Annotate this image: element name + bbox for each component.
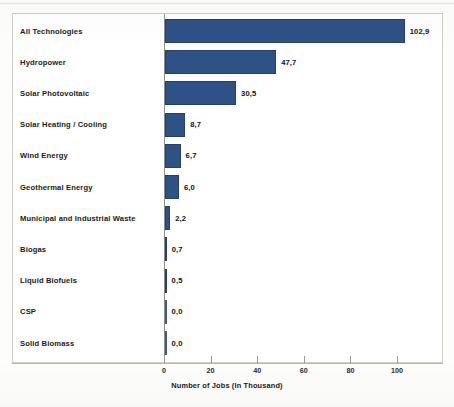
bar <box>165 81 236 105</box>
x-tick-label: 60 <box>300 366 308 375</box>
category-label: Hydropower <box>20 58 168 67</box>
bar-value-label: 2,2 <box>175 214 186 223</box>
bar-value-label: 8,7 <box>190 120 201 129</box>
bar <box>165 300 167 324</box>
category-axis-labels: All TechnologiesHydropowerSolar Photovol… <box>12 13 164 363</box>
x-tick-mark <box>304 356 305 363</box>
x-tick-label: 20 <box>207 366 215 375</box>
bar <box>165 237 167 261</box>
category-label: Wind Energy <box>20 151 168 160</box>
x-tick-mark <box>257 356 258 363</box>
x-tick-mark <box>164 356 165 363</box>
bar-value-label: 0,0 <box>172 307 183 316</box>
bar <box>165 331 167 355</box>
bar-value-label: 47,7 <box>281 58 296 67</box>
chart-container: All TechnologiesHydropowerSolar Photovol… <box>0 0 454 407</box>
x-tick-label: 100 <box>391 366 403 375</box>
x-tick-mark <box>211 356 212 363</box>
x-axis-title: Number of Jobs (In Thousand) <box>0 381 454 390</box>
x-tick-label: 0 <box>162 366 166 375</box>
category-label: Biogas <box>20 245 168 254</box>
bar <box>165 175 179 199</box>
x-tick-mark <box>397 356 398 363</box>
bar <box>165 269 167 293</box>
x-tick-label: 40 <box>253 366 261 375</box>
bar-value-label: 102,9 <box>410 27 430 36</box>
bar-value-label: 6,0 <box>184 183 195 192</box>
x-tick-label: 80 <box>346 366 354 375</box>
category-label: CSP <box>20 307 168 316</box>
bar-value-label: 30,5 <box>241 89 256 98</box>
bar-value-label: 0,0 <box>172 339 183 348</box>
scan-artifact-line <box>0 3 454 4</box>
bar-value-label: 6,7 <box>186 151 197 160</box>
category-label: Solar Photovoltaic <box>20 89 168 98</box>
category-label: Municipal and Industrial Waste <box>20 214 168 223</box>
bar <box>165 144 181 168</box>
bar <box>165 50 276 74</box>
bars-layer: 102,947,730,58,76,76,02,20,70,50,00,0 <box>165 13 443 363</box>
bar <box>165 113 185 137</box>
x-axis-line <box>12 363 443 364</box>
bar <box>165 19 405 43</box>
x-tick-mark <box>350 356 351 363</box>
category-label: Geothermal Energy <box>20 183 168 192</box>
bar-value-label: 0,7 <box>172 245 183 254</box>
bar <box>165 206 170 230</box>
category-label: Liquid Biofuels <box>20 276 168 285</box>
category-label: All Technologies <box>20 27 168 36</box>
category-label: Solar Heating / Cooling <box>20 120 168 129</box>
category-label: Solid Biomass <box>20 339 168 348</box>
bar-value-label: 0,5 <box>172 276 183 285</box>
